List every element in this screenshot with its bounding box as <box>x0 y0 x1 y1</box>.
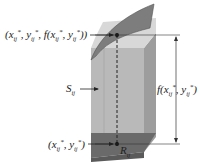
column-diagram: (xij*, yij*, f(xij*, yij*)) (xij*, yij*)… <box>0 0 200 162</box>
height-arrow-bottom <box>174 138 178 143</box>
height-label: f(xij*, yij*) <box>157 83 197 97</box>
top-point-label: (xij*, yij*, f(xij*, yij*)) <box>5 28 88 42</box>
surface-label: Sij <box>66 82 75 96</box>
base-point-label: (xij*, yij*) <box>48 138 85 152</box>
height-arrow-top <box>174 36 178 41</box>
